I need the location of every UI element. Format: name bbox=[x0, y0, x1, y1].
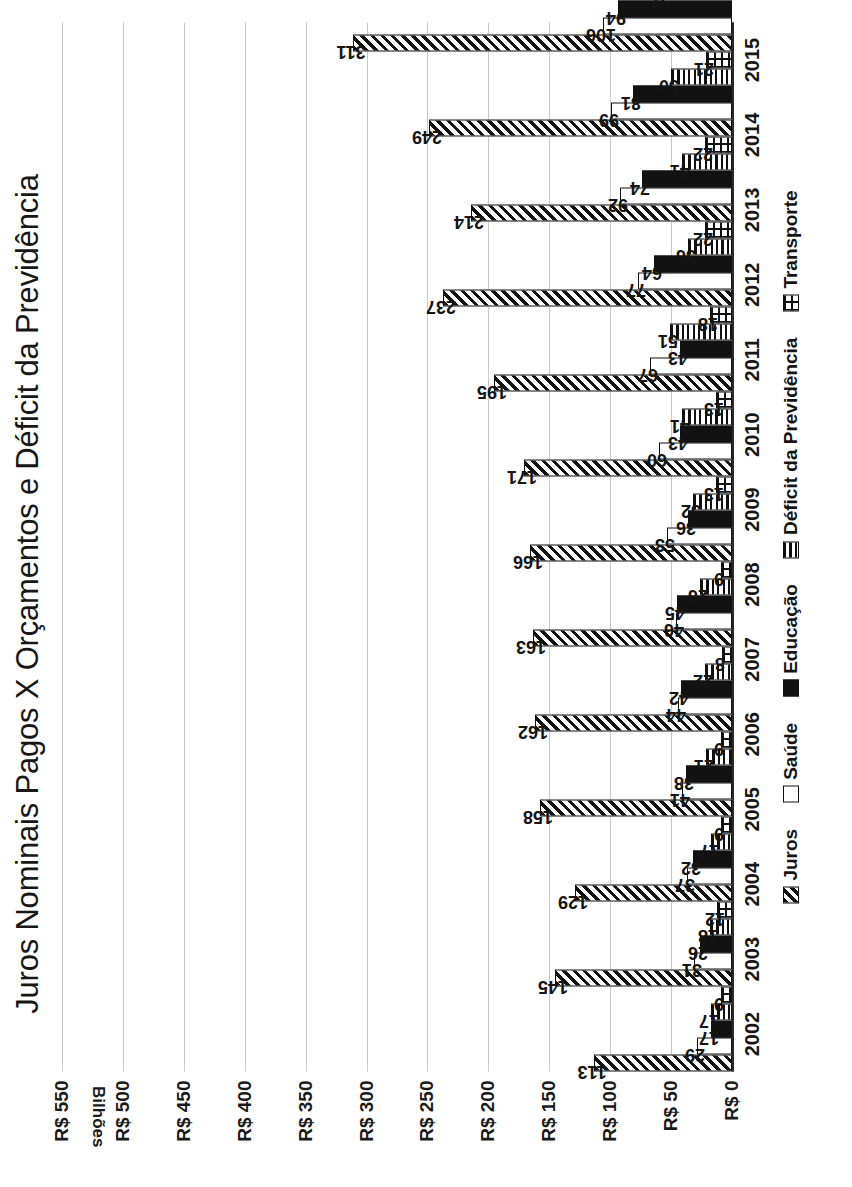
bar-group: 19567435118 bbox=[62, 306, 732, 391]
category-label: 2008 bbox=[734, 547, 768, 622]
bar-value-label: 37 bbox=[675, 876, 695, 894]
bar-value-label: 43 bbox=[668, 349, 688, 367]
bar-value-label: 77 bbox=[626, 281, 646, 299]
bar: 163 bbox=[533, 629, 732, 646]
bar-value-label: 17 bbox=[699, 1029, 719, 1047]
bar-value-label: 45 bbox=[665, 604, 685, 622]
legend-label: Educação bbox=[780, 584, 802, 674]
rotated-figure-wrapper: Juros Nominais Pagos X Orçamentos e Défi… bbox=[0, 0, 852, 1187]
bar-value-label: 32 bbox=[681, 859, 701, 877]
bar: 9 bbox=[721, 986, 732, 1003]
bar-value-label: 46 bbox=[664, 621, 684, 639]
bar: 113 bbox=[594, 1054, 732, 1071]
bar-value-label: 36 bbox=[676, 519, 696, 537]
bar: 22 bbox=[705, 221, 732, 238]
legend-swatch-icon bbox=[783, 886, 799, 903]
y-axis-tick-label: R$ 400 bbox=[234, 1080, 256, 1141]
bar-value-label: 311 bbox=[337, 43, 366, 61]
category-label: 2014 bbox=[734, 97, 768, 172]
category-label: 2013 bbox=[734, 172, 768, 247]
bar: 21 bbox=[706, 51, 732, 68]
bar: 12 bbox=[717, 901, 732, 918]
bar-value-label: 214 bbox=[454, 213, 484, 231]
category-label: 2015 bbox=[734, 22, 768, 97]
bar-value-label: 67 bbox=[638, 366, 658, 384]
bar-value-label: 64 bbox=[642, 264, 662, 282]
bar-value-label: 21 bbox=[694, 60, 714, 78]
bar: 158 bbox=[540, 799, 732, 816]
axis-unit-label: Bilhões bbox=[88, 1086, 108, 1147]
bar-value-label: 22 bbox=[693, 145, 713, 163]
bar-value-label: 41 bbox=[670, 417, 690, 435]
bar-value-label: 60 bbox=[647, 451, 667, 469]
bar-group: 1584138219 bbox=[62, 731, 732, 816]
bar: 94 bbox=[618, 0, 733, 17]
legend-swatch-icon bbox=[783, 679, 799, 696]
bar-group: 17160434113 bbox=[62, 391, 732, 476]
bar-value-label: 36 bbox=[676, 247, 696, 265]
legend-item[interactable]: Déficit da Previdência bbox=[780, 337, 802, 557]
legend-swatch-icon bbox=[783, 294, 799, 311]
bar-group: 1293732179 bbox=[62, 816, 732, 901]
bar: 13 bbox=[716, 391, 732, 408]
bar-value-label: 43 bbox=[668, 434, 688, 452]
bar-value-label: 8 bbox=[715, 655, 725, 673]
bar-value-label: 50 bbox=[659, 77, 679, 95]
bar-value-label: 38 bbox=[674, 774, 694, 792]
category-label: 2006 bbox=[734, 696, 768, 771]
category-label: 2011 bbox=[734, 322, 768, 397]
bar: 145 bbox=[555, 969, 732, 986]
bar: 237 bbox=[443, 289, 732, 306]
bar-value-label: 22 bbox=[693, 230, 713, 248]
bar-group: 16653363213 bbox=[62, 476, 732, 561]
y-axis-tick-label: R$ 450 bbox=[173, 1080, 195, 1141]
bar-value-label: 163 bbox=[516, 638, 546, 656]
bar-value-label: 9 bbox=[714, 570, 724, 588]
bar: 13 bbox=[716, 476, 732, 493]
bar-group: 311106945721 bbox=[62, 0, 732, 51]
page-title: Juros Nominais Pagos X Orçamentos e Défi… bbox=[10, 0, 46, 1187]
bar-value-label: 81 bbox=[621, 94, 641, 112]
chart-legend: JurosSaúdeEducaçãoDéficit da Previdência… bbox=[780, 22, 802, 1071]
bar: 311 bbox=[353, 34, 732, 51]
bar-groups: 1132917179145312618121293732179158413821… bbox=[62, 22, 732, 1071]
bar-group: 23777643622 bbox=[62, 221, 732, 306]
legend-swatch-icon bbox=[783, 541, 799, 558]
bar-value-label: 74 bbox=[630, 179, 650, 197]
category-axis-labels: 2002200320042005200620072008200920102011… bbox=[734, 22, 768, 1071]
bar-value-label: 31 bbox=[682, 961, 702, 979]
bar-value-label: 162 bbox=[518, 723, 548, 741]
bar-group: 24999815021 bbox=[62, 51, 732, 136]
bar-value-label: 26 bbox=[688, 944, 708, 962]
bar-value-label: 51 bbox=[658, 332, 678, 350]
bar: 9 bbox=[721, 816, 732, 833]
category-label: 2003 bbox=[734, 921, 768, 996]
bar: 9 bbox=[721, 561, 732, 578]
bar: 67 bbox=[650, 357, 732, 374]
y-axis-tick-label: R$ 500 bbox=[112, 1080, 134, 1141]
bar-value-label: 18 bbox=[698, 927, 718, 945]
y-axis-tick-label: R$ 150 bbox=[538, 1080, 560, 1141]
legend-item[interactable]: Educação bbox=[780, 584, 802, 697]
category-label: 2012 bbox=[734, 247, 768, 322]
legend-label: Saúde bbox=[780, 722, 802, 779]
legend-item[interactable]: Juros bbox=[780, 828, 802, 903]
bar-value-label: 29 bbox=[685, 1046, 705, 1064]
bar: 22 bbox=[705, 136, 732, 153]
bar: 9 bbox=[721, 731, 732, 748]
legend-item[interactable]: Transporte bbox=[780, 190, 802, 311]
legend-item[interactable]: Saúde bbox=[780, 722, 802, 802]
bar-value-label: 22 bbox=[693, 672, 713, 690]
bar-value-label: 9 bbox=[714, 995, 724, 1013]
bar: 166 bbox=[530, 544, 732, 561]
bar-group: 1624442228 bbox=[62, 646, 732, 731]
bar: 171 bbox=[524, 459, 732, 476]
bar-value-label: 41 bbox=[670, 162, 690, 180]
bar: 214 bbox=[471, 204, 732, 221]
bar: 195 bbox=[494, 374, 732, 391]
bar-value-label: 44 bbox=[666, 706, 686, 724]
y-axis-tick-label: R$ 550 bbox=[51, 1080, 73, 1141]
bar-value-label: 106 bbox=[586, 26, 616, 44]
bar-value-label: 41 bbox=[670, 791, 690, 809]
bar-value-label: 92 bbox=[608, 196, 628, 214]
